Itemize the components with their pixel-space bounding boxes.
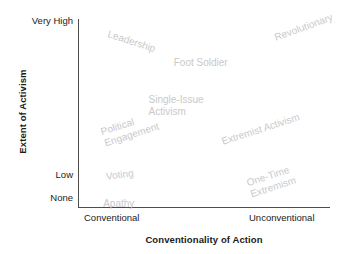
x-axis-title: Conventionality of Action bbox=[78, 234, 330, 245]
x-tick-label-unconventional: Unconventional bbox=[249, 212, 315, 223]
y-tick-label-low: Low bbox=[0, 169, 73, 180]
activism-quadrant-chart: Extent of Activism Conventionality of Ac… bbox=[0, 0, 337, 254]
data-label-extremist-activism: Extremist Activism bbox=[220, 111, 301, 147]
data-label-foot-soldier: Foot Soldier bbox=[174, 57, 228, 69]
data-label-line: Leadership bbox=[106, 29, 157, 56]
data-label-line: Extremist Activism bbox=[220, 111, 301, 147]
data-label-single-issue-activism: Single-Issue Activism bbox=[149, 94, 204, 118]
data-label-line: Activism bbox=[149, 106, 204, 118]
data-label-voting: Voting bbox=[105, 167, 134, 183]
y-tick-label-very-high: Very High bbox=[0, 15, 73, 26]
data-label-apathy: Apathy bbox=[103, 198, 134, 210]
data-label-one-time-extremism: One-Time Extremism bbox=[246, 163, 298, 200]
y-axis-line bbox=[78, 19, 79, 208]
data-label-line: Apathy bbox=[103, 198, 134, 210]
data-label-line: Voting bbox=[105, 167, 134, 183]
data-label-political-engagement: Political Engagement bbox=[99, 109, 160, 149]
x-tick-label-conventional: Conventional bbox=[84, 212, 139, 223]
data-label-line: Revolutionary bbox=[272, 12, 334, 44]
y-tick-label-none: None bbox=[0, 192, 73, 203]
data-label-revolutionary: Revolutionary bbox=[272, 12, 334, 44]
data-label-leadership: Leadership bbox=[106, 29, 157, 56]
data-label-line: Single-Issue bbox=[149, 94, 204, 106]
data-label-line: Foot Soldier bbox=[174, 57, 228, 69]
y-axis-title: Extent of Activism bbox=[17, 52, 28, 172]
